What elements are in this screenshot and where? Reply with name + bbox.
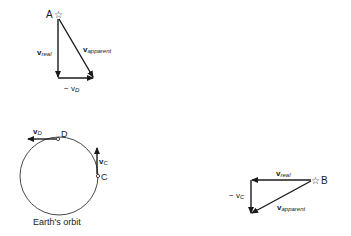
v-apparent-a-label: vapparent <box>83 45 111 54</box>
neg-vd-label: − vD <box>64 84 80 93</box>
v-real-b-label: vreal <box>276 169 291 178</box>
v-real-a-label: vreal <box>37 48 52 57</box>
star-a-icon: ☆ <box>54 9 63 20</box>
neg-vc-label: − vC <box>229 191 245 200</box>
star-b-group: ☆ B vreal vapparent − vC <box>229 169 328 213</box>
star-a-label: A <box>46 9 53 20</box>
point-d-label: D <box>61 129 68 139</box>
point-d-marker <box>56 137 59 140</box>
v-apparent-b-label: vapparent <box>277 203 305 212</box>
earth-orbit-circle <box>20 137 98 215</box>
vd-label: vD <box>33 127 42 136</box>
orbit-caption: Earth's orbit <box>33 217 81 227</box>
vc-label: vC <box>99 157 108 166</box>
aberration-diagram: A ☆ vreal vapparent − vD D C vD vC Earth… <box>0 0 351 236</box>
star-a-group: A ☆ vreal vapparent − vD <box>37 9 111 93</box>
point-c-marker <box>96 174 99 177</box>
point-c-label: C <box>101 172 108 182</box>
star-b-label: B <box>321 175 328 186</box>
earth-orbit-group: D C vD vC Earth's orbit <box>20 127 108 227</box>
star-b-icon: ☆ <box>311 175 320 186</box>
